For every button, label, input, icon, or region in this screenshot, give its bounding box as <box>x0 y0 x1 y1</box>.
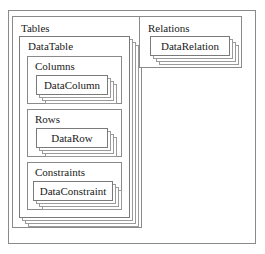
datarow-label: DataRow <box>37 129 107 147</box>
constraints-collection-title: Constraints <box>35 166 85 178</box>
relations-collection-container: Relations DataRelation <box>139 16 242 68</box>
rows-collection-title: Rows <box>35 113 60 125</box>
datatable-card: DataTable Columns DataColumn Rows DataR <box>19 36 130 218</box>
rows-collection-container: Rows DataRow <box>27 109 122 157</box>
datarelation-card: DataRelation <box>150 36 230 56</box>
datarelation-label: DataRelation <box>151 37 229 55</box>
datacolumn-label: DataColumn <box>37 76 107 94</box>
datacolumn-card: DataColumn <box>36 75 108 95</box>
dataconstraint-stack: DataConstraint <box>33 181 113 201</box>
relations-collection-title: Relations <box>148 22 190 34</box>
datarelation-stack: DataRelation <box>150 36 230 56</box>
datatable-stack: DataTable Columns DataColumn Rows DataR <box>19 36 130 218</box>
datarow-stack: DataRow <box>36 128 108 148</box>
datarow-card: DataRow <box>36 128 108 148</box>
datacolumn-stack: DataColumn <box>36 75 108 95</box>
datatable-title: DataTable <box>28 40 73 52</box>
columns-collection-container: Columns DataColumn <box>27 56 122 104</box>
columns-collection-title: Columns <box>35 60 75 72</box>
tables-collection-title: Tables <box>21 22 50 34</box>
dataconstraint-card: DataConstraint <box>33 181 113 201</box>
constraints-collection-container: Constraints DataConstraint <box>27 162 122 210</box>
dataconstraint-label: DataConstraint <box>34 182 112 200</box>
